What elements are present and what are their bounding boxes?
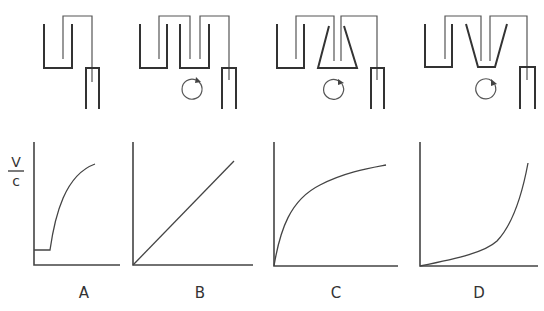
graph-c: C (274, 142, 398, 302)
reservoir-vessel (425, 24, 452, 67)
siphon-tube-1 (296, 16, 334, 61)
siphon-tube-2 (200, 16, 229, 80)
panel-label-a: A (79, 284, 90, 302)
curve-exponential (420, 163, 528, 266)
axes (34, 142, 120, 265)
panel-label-b: B (195, 284, 205, 302)
curve-lag-saturation (34, 164, 95, 250)
curve-linear (133, 161, 234, 265)
y-label-denominator: c (12, 173, 20, 189)
reservoir-vessel (140, 24, 167, 68)
apparatus-c (277, 16, 384, 109)
graph-d: D (420, 142, 538, 302)
siphon-tube (63, 16, 92, 82)
mixing-vessel (180, 24, 209, 68)
trapezoid-vessel (318, 26, 357, 68)
panel-label-c: C (331, 284, 341, 302)
siphon-tube-1 (445, 16, 481, 61)
curve-saturating (274, 165, 386, 266)
apparatus-d (425, 16, 535, 109)
axes (274, 142, 398, 266)
siphon-tube-2 (490, 16, 527, 80)
diagram-canvas: V c A B C D (0, 0, 544, 311)
y-label-numerator: V (11, 154, 21, 170)
apparatus-a (44, 16, 99, 109)
y-axis-label: V c (8, 154, 24, 189)
siphon-tube-1 (159, 16, 190, 59)
axes (420, 142, 538, 266)
stirrer-icon (182, 77, 202, 99)
reservoir-vessel (44, 24, 72, 68)
panel-label-d: D (473, 284, 485, 302)
graph-a: A (34, 142, 120, 302)
apparatus-b (140, 16, 236, 109)
reservoir-vessel (277, 24, 304, 68)
stirrer-icon (324, 79, 344, 99)
inverted-trapezoid-vessel (466, 24, 507, 67)
stirrer-icon (476, 79, 497, 99)
graph-b: B (133, 142, 253, 302)
